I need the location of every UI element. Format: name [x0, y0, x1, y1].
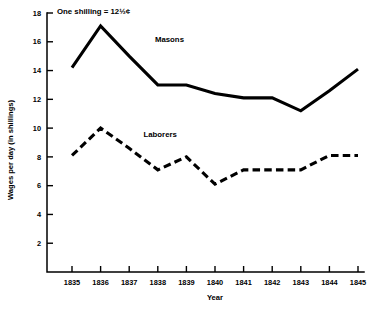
series-inline-labels: MasonsLaborers — [144, 35, 185, 139]
y-tick-label-8: 8 — [37, 153, 41, 162]
y-tick-label-10: 10 — [33, 124, 41, 133]
y-axis-tick-marks — [47, 13, 53, 243]
x-tick-label-1841: 1841 — [235, 278, 251, 287]
x-axis-tick-labels: 1835183618371838183918401841184218431844… — [64, 278, 366, 287]
series-line-laborers — [72, 128, 358, 184]
series-label-masons: Masons — [155, 35, 185, 44]
wages-line-chart: 24681012141618 1835183618371838183918401… — [0, 0, 372, 309]
x-axis-tick-marks — [72, 266, 358, 272]
axis-lines — [47, 13, 364, 272]
y-tick-label-16: 16 — [33, 37, 41, 46]
x-tick-label-1836: 1836 — [92, 278, 108, 287]
x-tick-label-1842: 1842 — [264, 278, 280, 287]
chart-canvas: 24681012141618 1835183618371838183918401… — [0, 0, 372, 309]
series-label-laborers: Laborers — [144, 130, 178, 139]
y-tick-label-4: 4 — [37, 210, 42, 219]
y-tick-label-6: 6 — [37, 181, 41, 190]
x-tick-label-1844: 1844 — [321, 278, 338, 287]
x-tick-label-1837: 1837 — [121, 278, 137, 287]
y-axis-tick-labels: 24681012141618 — [33, 9, 42, 248]
x-tick-label-1839: 1839 — [178, 278, 194, 287]
x-tick-label-1845: 1845 — [350, 278, 366, 287]
currency-conversion-note: One shilling = 12½¢ — [57, 7, 131, 16]
y-tick-label-12: 12 — [33, 95, 41, 104]
x-tick-label-1843: 1843 — [293, 278, 309, 287]
x-tick-label-1838: 1838 — [150, 278, 166, 287]
y-tick-label-18: 18 — [33, 9, 41, 18]
x-axis-title: Year — [207, 293, 223, 302]
y-tick-label-2: 2 — [37, 239, 41, 248]
series-line-masons — [72, 26, 358, 111]
data-series-group — [72, 26, 358, 184]
x-tick-label-1840: 1840 — [207, 278, 223, 287]
y-tick-label-14: 14 — [33, 66, 42, 75]
x-tick-label-1835: 1835 — [64, 278, 80, 287]
chart-axes — [47, 13, 364, 272]
y-axis-title: Wages per day (in shillings) — [6, 99, 15, 200]
